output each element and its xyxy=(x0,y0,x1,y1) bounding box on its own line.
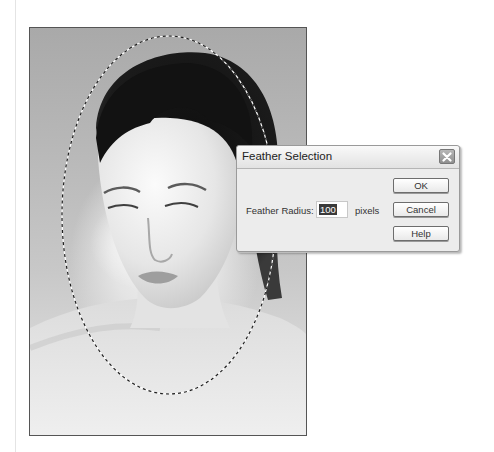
close-button[interactable] xyxy=(439,149,455,164)
cancel-button[interactable]: Cancel xyxy=(393,202,449,217)
feather-radius-value: 100 xyxy=(319,204,337,215)
close-x-icon xyxy=(442,152,452,162)
pixels-unit-label: pixels xyxy=(355,205,379,216)
feather-radius-input[interactable]: 100 xyxy=(316,201,348,218)
ok-button[interactable]: OK xyxy=(393,178,449,193)
dialog-titlebar[interactable]: Feather Selection xyxy=(237,146,459,169)
feather-radius-label: Feather Radius: xyxy=(246,205,314,216)
feather-selection-dialog: Feather Selection Feather Radius: 100 pi… xyxy=(236,145,460,252)
dialog-title: Feather Selection xyxy=(242,150,332,162)
help-button[interactable]: Help xyxy=(393,226,449,241)
page-margin-rule xyxy=(15,0,16,452)
